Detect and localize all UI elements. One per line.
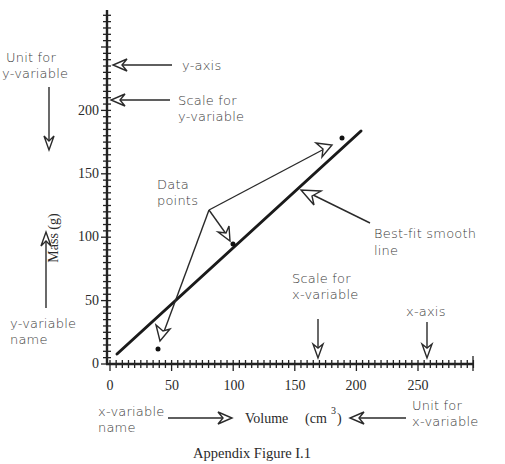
best-fit-line: [117, 131, 361, 354]
arrow-down-icon: [44, 87, 54, 150]
annotation-y-var-name-line1: y-variable: [10, 316, 76, 331]
annotation-x-axis: x-axis: [406, 304, 446, 319]
annotation-scale-x-line1: Scale for: [292, 271, 351, 286]
annotation-scale-x-line2: x-variable: [292, 287, 358, 302]
annotation-scale-y-line1: Scale for: [178, 93, 237, 108]
annotation-unit-x-line1: Unit for: [412, 398, 463, 413]
x-axis-label-text: Volume: [245, 411, 288, 426]
x-axis-label: Volume (cm 3 ): [245, 405, 342, 427]
annotation-best-fit-line1: Best-fit smooth: [374, 226, 476, 241]
arrow-left-icon: [111, 94, 170, 106]
x-tick-150: 150: [285, 378, 306, 393]
arrow-left-icon: [350, 412, 406, 424]
y-tick-200: 200: [78, 103, 99, 118]
figure-canvas: 0 50 100 150 200 0 50 100 150 200 250 Ma…: [0, 0, 505, 464]
annotation-unit-y-line2: y-variable: [2, 66, 68, 81]
annotation-y-axis: y-axis: [182, 58, 221, 73]
arrow-left-up-icon: [301, 190, 370, 223]
annotation-scale-y-line2: y-variable: [178, 109, 244, 124]
data-point-2: [231, 242, 236, 247]
data-point-3: [340, 136, 345, 141]
annotation-unit-y-line1: Unit for: [6, 50, 57, 65]
data-points-pointer-arrows: [156, 143, 332, 341]
x-tick-labels: 0 50 100 150 200 250: [107, 378, 429, 393]
x-tick-200: 200: [346, 378, 367, 393]
annotation-data-points-line1: Data: [157, 177, 189, 192]
x-axis-unit-superscript: 3: [331, 405, 336, 416]
annotation-best-fit-line2: line: [374, 243, 398, 258]
arrow-right-icon: [168, 412, 232, 424]
data-point-1: [156, 347, 161, 352]
x-tick-250: 250: [408, 378, 429, 393]
x-tick-0: 0: [107, 378, 114, 393]
y-tick-0: 0: [92, 356, 99, 371]
arrow-left-icon: [113, 59, 172, 71]
arrow-up-icon: [41, 232, 51, 308]
x-tick-100: 100: [224, 378, 245, 393]
arrow-down-icon: [313, 319, 323, 358]
x-axis-unit: (cm: [305, 411, 327, 427]
annotation-x-var-name-line2: name: [98, 420, 136, 435]
y-tick-50: 50: [85, 293, 99, 308]
annotation-data-points-line2: points: [157, 193, 198, 208]
y-tick-labels: 0 50 100 150 200: [78, 103, 99, 371]
arrow-down-icon: [422, 322, 432, 358]
figure-caption: Appendix Figure I.1: [193, 445, 311, 461]
y-tick-100: 100: [78, 229, 99, 244]
annotation-y-var-name-line2: name: [10, 332, 48, 347]
annotation-unit-x-line2: x-variable: [412, 414, 478, 429]
x-tick-50: 50: [165, 378, 179, 393]
y-tick-150: 150: [78, 166, 99, 181]
annotation-x-var-name-line1: x-variable: [98, 404, 164, 419]
x-axis-unit-close: ): [337, 411, 342, 427]
